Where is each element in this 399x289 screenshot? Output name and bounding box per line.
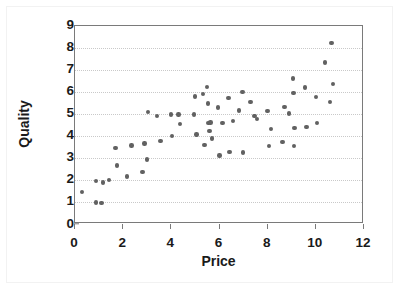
data-point [178,122,182,126]
x-tick-label-4: 4 [155,236,185,250]
x-tick-mark-12 [363,224,364,229]
data-point [99,201,103,205]
data-point [287,111,291,115]
x-tick-label-2: 2 [107,236,137,250]
data-point [291,76,295,80]
data-point [216,105,220,109]
data-point [240,90,244,94]
data-point [227,150,231,154]
data-point [145,157,149,161]
data-point [125,174,129,178]
data-point [282,105,286,109]
gridline-y-4 [75,136,362,137]
data-point [194,132,198,136]
data-point [329,41,333,45]
gridline-y-5 [75,114,362,115]
data-point [255,117,259,121]
data-point [94,200,98,204]
data-point [169,112,173,116]
x-tick-mark-10 [315,224,316,229]
data-point [193,94,197,98]
data-point [304,125,308,129]
data-point [208,120,212,124]
data-point [210,136,214,140]
data-point [201,92,205,96]
data-point [107,178,111,182]
data-point [291,91,295,95]
data-point [231,119,235,123]
data-point [192,112,196,116]
data-point [113,146,117,150]
data-point [80,190,84,194]
x-tick-mark-0 [74,224,75,229]
data-point [267,144,271,148]
data-point [315,121,319,125]
data-point [331,82,335,86]
data-point [248,100,252,104]
x-tick-label-8: 8 [252,236,282,250]
gridline-y-8 [75,48,362,49]
data-point [323,60,327,64]
data-point [101,180,105,184]
x-tick-mark-2 [122,224,123,229]
data-point [94,179,98,183]
x-tick-label-6: 6 [204,236,234,250]
data-point [129,143,133,147]
data-point [292,144,296,148]
data-point [303,85,307,89]
data-point [155,114,159,118]
data-point [207,129,211,133]
data-point [226,96,230,100]
x-tick-label-12: 12 [348,236,378,250]
gridline-y-7 [75,70,362,71]
gridline-y-6 [75,92,362,93]
data-point [205,85,209,89]
data-point [265,109,269,113]
data-point [241,150,245,154]
x-tick-mark-6 [219,224,220,229]
data-point [142,141,146,145]
x-tick-label-10: 10 [300,236,330,250]
data-point [314,95,318,99]
data-point [292,126,296,130]
data-point [176,112,180,116]
plot-area [74,25,363,224]
gridline-y-2 [75,180,362,181]
data-point [158,139,162,143]
data-point [170,134,174,138]
gridline-y-1 [75,202,362,203]
data-point [220,121,224,125]
scatter-chart-figure: Quality Price 0123456789 024681012 [0,0,399,289]
data-point [328,100,332,104]
data-point [146,110,150,114]
x-tick-label-0: 0 [59,236,89,250]
data-point [202,143,206,147]
data-point [280,140,284,144]
data-point [217,153,221,157]
data-point [206,101,210,105]
data-point [269,127,273,131]
x-tick-mark-4 [170,224,171,229]
gridline-y-3 [75,158,362,159]
data-point [237,108,241,112]
x-tick-mark-8 [267,224,268,229]
data-point [140,170,144,174]
data-point [115,163,119,167]
